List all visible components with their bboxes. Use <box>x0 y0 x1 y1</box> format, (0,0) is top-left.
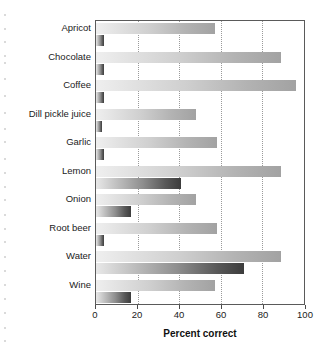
category-label: Coffee <box>1 80 91 90</box>
bar-chart-figure: ApricotChocolateCoffeeDill pickle juiceG… <box>0 0 322 347</box>
gridline-100 <box>304 21 305 304</box>
category-label: Garlic <box>1 137 91 147</box>
x-tick-label: 80 <box>248 309 278 320</box>
scan-speck <box>4 14 6 16</box>
x-tick-label: 40 <box>164 309 194 320</box>
bar-light <box>96 223 217 234</box>
bar-dark <box>96 292 131 303</box>
category-label: Water <box>1 251 91 261</box>
bar-dark <box>96 149 104 160</box>
bar-dark <box>96 64 104 75</box>
bar-dark <box>96 35 104 46</box>
category-label: Lemon <box>1 166 91 176</box>
category-label: Onion <box>1 194 91 204</box>
bar-light <box>96 52 281 63</box>
bar-group <box>96 23 304 50</box>
x-tick-label: 100 <box>290 309 320 320</box>
bar-dark <box>96 178 181 189</box>
bar-group <box>96 166 304 193</box>
x-tick-label: 60 <box>206 309 236 320</box>
category-axis-labels: ApricotChocolateCoffeeDill pickle juiceG… <box>0 20 91 305</box>
category-label: Root beer <box>1 223 91 233</box>
bar-group <box>96 137 304 164</box>
bar-group <box>96 251 304 278</box>
bar-light <box>96 137 217 148</box>
bar-light <box>96 166 281 177</box>
bar-dark <box>96 235 104 246</box>
x-axis-tick-labels: 020406080100 <box>95 309 305 323</box>
scan-speck <box>4 340 6 342</box>
bar-light <box>96 280 215 291</box>
bar-light <box>96 23 215 34</box>
bar-group <box>96 194 304 221</box>
x-axis-title: Percent correct <box>95 328 305 339</box>
plot-area <box>95 20 305 305</box>
x-tick-label: 0 <box>80 309 110 320</box>
category-label: Chocolate <box>1 52 91 62</box>
bar-group <box>96 80 304 107</box>
bar-dark <box>96 92 104 103</box>
bar-dark <box>96 121 102 132</box>
bar-light <box>96 109 196 120</box>
bar-group <box>96 280 304 306</box>
bar-light <box>96 251 281 262</box>
bar-light <box>96 194 196 205</box>
bar-group <box>96 223 304 250</box>
bar-group <box>96 109 304 136</box>
category-label: Apricot <box>1 23 91 33</box>
scan-speck <box>4 312 6 314</box>
scan-speck <box>4 327 6 329</box>
category-label: Dill pickle juice <box>1 109 91 119</box>
bar-dark <box>96 263 244 274</box>
bar-group <box>96 52 304 79</box>
x-tick-label: 20 <box>122 309 152 320</box>
bar-light <box>96 80 296 91</box>
bar-dark <box>96 206 131 217</box>
category-label: Wine <box>1 280 91 290</box>
